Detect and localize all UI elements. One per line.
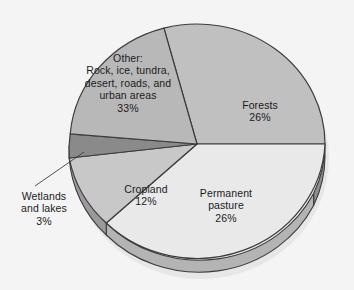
pie-chart: Other: Rock, ice, tundra, desert, roads,… bbox=[0, 0, 354, 290]
pie-top-face bbox=[69, 24, 325, 258]
pie-chart-graphic bbox=[0, 0, 354, 290]
